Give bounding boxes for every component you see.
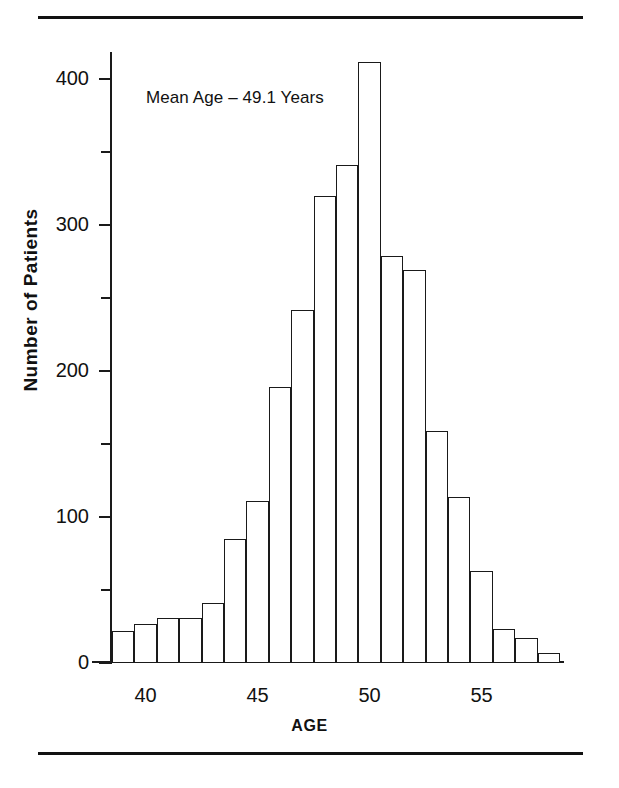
histogram-bar	[336, 165, 358, 663]
y-tick-minor	[101, 443, 112, 445]
x-tick-label: 55	[454, 684, 510, 706]
histogram-bar	[358, 62, 380, 663]
y-tick-label: 100	[43, 506, 89, 526]
plot-area	[112, 50, 560, 663]
y-tick	[99, 516, 112, 518]
histogram-bar	[246, 501, 268, 663]
y-tick	[99, 224, 112, 226]
histogram-bar	[112, 631, 134, 663]
histogram-bar	[448, 497, 470, 663]
y-tick-label: 200	[43, 360, 89, 380]
x-axis-title: AGE	[0, 717, 619, 735]
y-tick	[99, 78, 112, 80]
histogram-bar	[426, 431, 448, 663]
histogram-bars	[112, 50, 560, 663]
histogram-bar	[179, 618, 201, 663]
y-tick-minor	[101, 151, 112, 153]
x-tick-label: 40	[118, 684, 174, 706]
histogram-bar	[314, 196, 336, 663]
figure-page: Number of Patients 0100200300400 4045505…	[0, 0, 619, 788]
y-tick-minor	[101, 297, 112, 299]
histogram-bar	[157, 618, 179, 663]
histogram-bar	[269, 387, 291, 663]
mean-age-annotation: Mean Age – 49.1 Years	[146, 88, 324, 108]
y-tick-label: 0	[43, 652, 89, 672]
histogram-bar	[493, 629, 515, 663]
y-tick	[99, 370, 112, 372]
histogram-bar	[515, 638, 537, 663]
y-tick-label: 400	[43, 68, 89, 88]
y-axis-title-wrap: Number of Patients	[34, 0, 35, 788]
histogram-bar	[403, 270, 425, 663]
x-tick-label: 50	[342, 684, 398, 706]
histogram-bar	[291, 310, 313, 663]
histogram-bar	[538, 653, 560, 663]
y-tick	[99, 662, 112, 664]
histogram-bar	[134, 624, 156, 663]
bottom-rule	[38, 752, 583, 755]
histogram-bar	[381, 256, 403, 663]
top-rule	[38, 16, 583, 19]
histogram-bar	[202, 603, 224, 663]
y-tick-label: 300	[43, 214, 89, 234]
y-tick-minor	[101, 589, 112, 591]
y-axis-title: Number of Patients	[20, 208, 42, 391]
x-tick-label: 45	[230, 684, 286, 706]
histogram-bar	[224, 539, 246, 663]
histogram-bar	[470, 571, 492, 663]
